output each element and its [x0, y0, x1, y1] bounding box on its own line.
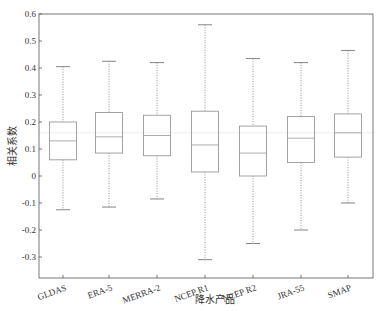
- box-ncep-r2: [240, 59, 267, 244]
- y-tick-label: 0: [32, 171, 37, 181]
- iqr-box: [240, 126, 267, 176]
- y-tick-label: -0.1: [22, 198, 36, 208]
- box-era-5: [96, 61, 123, 207]
- plot-area-frame: [39, 14, 373, 278]
- box-merra-2: [144, 63, 171, 199]
- box-gldas: [50, 67, 77, 210]
- box-plot-series: [50, 25, 362, 260]
- y-tick-label: 0.3: [25, 90, 37, 100]
- box-plot-chart: 0.60.50.40.30.20.10-0.1-0.2-0.3 GLDASERA…: [0, 0, 381, 311]
- x-tick-label: JRA-55: [276, 282, 306, 301]
- y-tick-label: 0.6: [25, 9, 37, 19]
- y-tick-label: 0.5: [25, 36, 37, 46]
- y-tick-label: 0.4: [25, 63, 37, 73]
- x-tick-label: ERA-5: [86, 282, 114, 300]
- iqr-box: [288, 117, 315, 163]
- y-tick-label: 0.1: [25, 144, 36, 154]
- x-tick-label: MERRA-2: [121, 282, 162, 305]
- box-jra-55: [288, 63, 315, 230]
- iqr-box: [335, 114, 362, 157]
- x-axis-title: 降水产品: [195, 293, 235, 305]
- x-tick-label: GLDAS: [36, 282, 68, 302]
- y-tick-label: 0.2: [25, 117, 36, 127]
- box-ncep-r1: [192, 25, 219, 260]
- y-tick-label: -0.3: [22, 252, 37, 262]
- y-axis-title: 相关系数: [6, 126, 18, 166]
- x-tick-label: SMAP: [326, 282, 352, 300]
- box-smap: [335, 50, 362, 203]
- iqr-box: [192, 111, 219, 172]
- y-tick-label: -0.2: [22, 225, 36, 235]
